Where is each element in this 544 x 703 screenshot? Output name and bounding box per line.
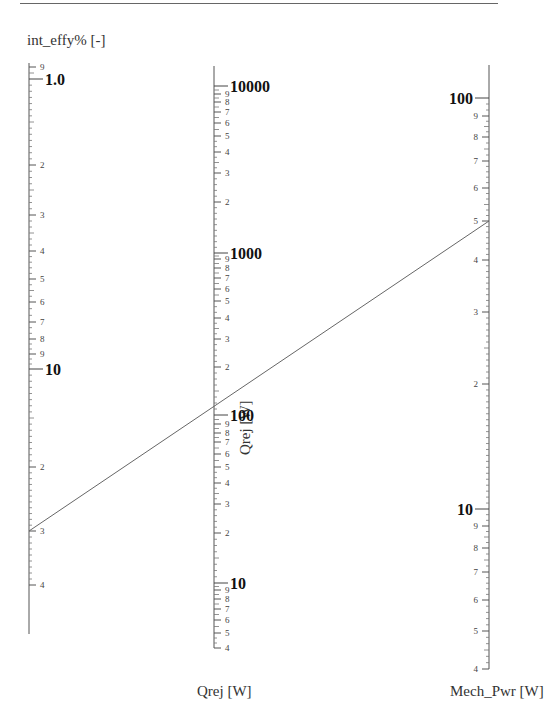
tick-label: 5 bbox=[474, 216, 479, 226]
tick-label: 2 bbox=[225, 362, 230, 372]
tick-label: 6 bbox=[474, 595, 479, 605]
tick-label: 4 bbox=[40, 580, 45, 590]
tick-label: 9 bbox=[474, 521, 479, 531]
axis-0: 9234567892341.010 bbox=[29, 62, 65, 634]
tick-label: 6 bbox=[225, 118, 230, 128]
tick-label: 5 bbox=[225, 462, 230, 472]
tick-label: 4 bbox=[474, 664, 479, 674]
tick-label: 4 bbox=[225, 147, 230, 157]
tick-label: 2 bbox=[225, 197, 230, 207]
tick-label: 2 bbox=[225, 528, 230, 538]
tick-label: 3 bbox=[40, 526, 45, 536]
tick-label: 7 bbox=[225, 273, 230, 283]
tick-label: 4 bbox=[40, 246, 45, 256]
tick-label: 4 bbox=[474, 255, 479, 265]
tick-label: 5 bbox=[225, 628, 230, 638]
major-tick-label: 1000 bbox=[230, 245, 262, 262]
tick-label: 2 bbox=[40, 160, 45, 170]
tick-label: 8 bbox=[225, 263, 230, 273]
major-tick-label: 100 bbox=[449, 90, 473, 107]
tick-label: 5 bbox=[225, 131, 230, 141]
axis-2: 9876543298765410010 bbox=[449, 65, 489, 674]
tick-label: 7 bbox=[40, 317, 45, 327]
tick-label: 3 bbox=[474, 307, 479, 317]
major-tick-label: 100 bbox=[230, 407, 254, 424]
tick-label: 2 bbox=[40, 462, 45, 472]
tick-label: 8 bbox=[474, 543, 479, 553]
tick-label: 6 bbox=[225, 284, 230, 294]
tick-label: 5 bbox=[474, 626, 479, 636]
major-tick-label: 1.0 bbox=[45, 71, 65, 88]
tick-label: 5 bbox=[40, 274, 45, 284]
tick-label: 9 bbox=[40, 349, 45, 359]
tick-label: 8 bbox=[225, 97, 230, 107]
tick-label: 4 bbox=[225, 313, 230, 323]
tick-label: 7 bbox=[225, 107, 230, 117]
tick-label: 6 bbox=[40, 297, 45, 307]
tick-label: 3 bbox=[40, 210, 45, 220]
tick-label: 9 bbox=[474, 111, 479, 121]
major-tick-label: 10 bbox=[45, 361, 61, 378]
tick-label: 3 bbox=[225, 499, 230, 509]
tick-label: 7 bbox=[474, 567, 479, 577]
tick-label: 8 bbox=[40, 334, 45, 344]
tick-label: 7 bbox=[225, 604, 230, 614]
tick-label: 4 bbox=[225, 478, 230, 488]
tick-label: 7 bbox=[474, 156, 479, 166]
tick-label: 6 bbox=[225, 449, 230, 459]
tick-label: 3 bbox=[225, 334, 230, 344]
axis-1: 9876543298765432987654329876541000010001… bbox=[214, 66, 270, 653]
tick-label: 5 bbox=[225, 296, 230, 306]
major-tick-label: 10 bbox=[457, 501, 473, 518]
tick-label: 8 bbox=[474, 132, 479, 142]
isopleth-line bbox=[29, 221, 489, 531]
major-tick-label: 10000 bbox=[230, 78, 270, 95]
tick-label: 6 bbox=[474, 183, 479, 193]
tick-label: 7 bbox=[225, 437, 230, 447]
tick-label: 2 bbox=[474, 379, 479, 389]
tick-label: 3 bbox=[225, 168, 230, 178]
major-tick-label: 10 bbox=[230, 575, 246, 592]
tick-label: 6 bbox=[225, 615, 230, 625]
tick-label: 4 bbox=[225, 643, 230, 653]
tick-label: 8 bbox=[225, 594, 230, 604]
